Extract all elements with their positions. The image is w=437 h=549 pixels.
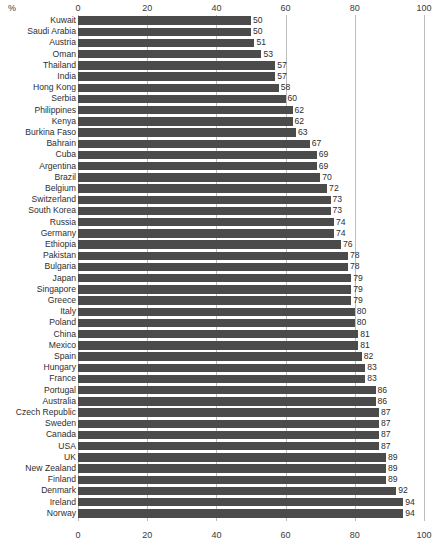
bar-value-label: 82 [364, 351, 374, 362]
bar [78, 296, 351, 304]
bar-value-label: 87 [381, 429, 391, 440]
bar-row: Hungary83 [0, 362, 437, 373]
category-label: Philippines [34, 105, 76, 116]
bar [78, 364, 365, 372]
category-label: Australia [43, 396, 76, 407]
bar-row: Poland80 [0, 317, 437, 328]
bar-row: Burkina Faso63 [0, 127, 437, 138]
category-label: Pakistan [43, 250, 76, 261]
bar-value-label: 81 [360, 340, 370, 351]
bar [78, 50, 261, 58]
bar-row: Russia74 [0, 217, 437, 228]
bar [78, 442, 379, 450]
bar-row: Argentina69 [0, 161, 437, 172]
category-label: Czech Republic [16, 407, 76, 418]
bar-value-label: 80 [357, 306, 367, 317]
category-label: Denmark [41, 485, 76, 496]
category-label: Hong Kong [33, 82, 76, 93]
bar [78, 431, 379, 439]
bar [78, 229, 334, 237]
bar-row: Austria51 [0, 37, 437, 48]
category-label: Austria [49, 37, 76, 48]
bar-row: Canada87 [0, 429, 437, 440]
bar [78, 386, 376, 394]
bar [78, 408, 379, 416]
bar-row: Ethiopia76 [0, 239, 437, 250]
category-label: France [49, 373, 76, 384]
bar-row: Pakistan78 [0, 250, 437, 261]
bar-row: Italy80 [0, 306, 437, 317]
bar-row: USA87 [0, 441, 437, 452]
category-label: Portugal [44, 385, 76, 396]
bar-value-label: 92 [398, 485, 408, 496]
category-label: Mexico [49, 340, 76, 351]
bar-row: Serbia60 [0, 93, 437, 104]
category-label: Ethiopia [45, 239, 76, 250]
bar-row: Switzerland73 [0, 194, 437, 205]
bar-row: China81 [0, 329, 437, 340]
bar-chart: % 020406080100 020406080100 Kuwait50Saud… [0, 0, 437, 549]
bar [78, 196, 331, 204]
category-label: Norway [47, 508, 76, 519]
bar [78, 28, 251, 36]
axis-tick-label-100: 100 [416, 3, 431, 13]
bar [78, 319, 355, 327]
bar [78, 375, 365, 383]
category-label: USA [58, 441, 76, 452]
bar-row: Kuwait50 [0, 15, 437, 26]
bar [78, 72, 275, 80]
bar [78, 308, 355, 316]
bar-value-label: 83 [367, 373, 377, 384]
bar [78, 509, 403, 517]
bar-row: Brazil70 [0, 172, 437, 183]
bar [78, 341, 358, 349]
bar-row: Hong Kong58 [0, 82, 437, 93]
bar-row: India57 [0, 71, 437, 82]
category-label: Russia [50, 217, 76, 228]
bar-row: Bahrain67 [0, 138, 437, 149]
category-label: Ireland [50, 497, 76, 508]
bar [78, 16, 251, 24]
category-label: Brazil [55, 172, 77, 183]
bar-value-label: 58 [281, 82, 291, 93]
category-label: Thailand [43, 60, 76, 71]
category-label: UK [64, 452, 76, 463]
bar-row: Sweden87 [0, 418, 437, 429]
category-label: Poland [49, 317, 76, 328]
bar [78, 498, 403, 506]
bar-value-label: 78 [350, 261, 360, 272]
bar-row: Denmark92 [0, 485, 437, 496]
axis-tick-label-80: 80 [350, 3, 360, 13]
category-label: Belgium [45, 183, 76, 194]
bar [78, 397, 376, 405]
bar-value-label: 86 [378, 396, 388, 407]
category-label: Canada [46, 429, 76, 440]
category-label: Spain [54, 351, 76, 362]
bar-value-label: 78 [350, 250, 360, 261]
bar-value-label: 62 [295, 116, 305, 127]
axis-tick-label-0: 0 [75, 3, 80, 13]
bar-value-label: 79 [353, 295, 363, 306]
bar-row: Singapore79 [0, 284, 437, 295]
bar-value-label: 87 [381, 407, 391, 418]
axis-tick-label-20: 20 [142, 3, 152, 13]
bar-value-label: 50 [253, 15, 263, 26]
category-label: Switzerland [32, 194, 76, 205]
category-label: Kuwait [50, 15, 76, 26]
bar-row: Germany74 [0, 228, 437, 239]
bar [78, 117, 293, 125]
axis-tick-label-60: 60 [281, 530, 291, 540]
bar-value-label: 80 [357, 317, 367, 328]
bar-row: Saudi Arabia50 [0, 26, 437, 37]
bar-value-label: 83 [367, 362, 377, 373]
bar [78, 173, 320, 181]
category-label: Oman [53, 49, 76, 60]
bar-row: Portugal86 [0, 385, 437, 396]
axis-tick-label-100: 100 [416, 530, 431, 540]
bar [78, 84, 279, 92]
bar-value-label: 57 [277, 60, 287, 71]
bar-row: France83 [0, 373, 437, 384]
axis-tick-label-60: 60 [281, 3, 291, 13]
category-label: Italy [60, 306, 76, 317]
bar-value-label: 57 [277, 71, 287, 82]
